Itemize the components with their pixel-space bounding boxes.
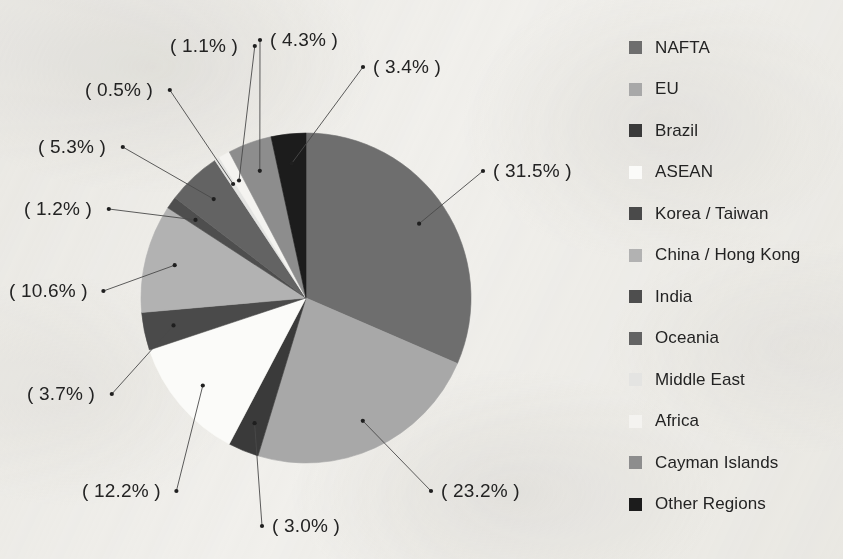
callout-marker-dot xyxy=(101,289,105,293)
callout-marker-dot xyxy=(237,178,241,182)
legend-color-swatch xyxy=(629,124,642,137)
callout-marker-dot xyxy=(212,197,216,201)
callout-marker-dot xyxy=(231,182,235,186)
legend-color-swatch xyxy=(629,249,642,262)
callout-marker-dot xyxy=(110,392,114,396)
legend-color-swatch xyxy=(629,41,642,54)
callout-marker-dot xyxy=(121,145,125,149)
callout-marker-dot xyxy=(201,383,205,387)
legend-item-label: Africa xyxy=(655,411,699,431)
callout-leader-line xyxy=(170,90,233,184)
chart-legend: NAFTAEUBrazilASEANKorea / TaiwanChina / … xyxy=(629,27,839,525)
legend-item-label: Brazil xyxy=(655,121,698,141)
pie-slice-percentage-label: ( 23.2% ) xyxy=(441,480,520,502)
pie-slice-percentage-label: ( 3.0% ) xyxy=(272,515,340,537)
pie-slice-percentage-label: ( 12.2% ) xyxy=(82,480,161,502)
pie-slice-percentage-label: ( 4.3% ) xyxy=(270,29,338,51)
legend-item-label: EU xyxy=(655,79,679,99)
legend-item-label: Korea / Taiwan xyxy=(655,204,769,224)
legend-item[interactable]: NAFTA xyxy=(629,27,839,69)
pie-slice-percentage-label: ( 31.5% ) xyxy=(493,160,572,182)
legend-item-label: Middle East xyxy=(655,370,745,390)
legend-item-label: India xyxy=(655,287,692,307)
legend-item[interactable]: Africa xyxy=(629,401,839,443)
callout-marker-dot xyxy=(168,88,172,92)
callout-marker-dot xyxy=(253,44,257,48)
legend-item-label: ASEAN xyxy=(655,162,713,182)
pie-slice-percentage-label: ( 3.4% ) xyxy=(373,56,441,78)
legend-color-swatch xyxy=(629,166,642,179)
legend-item-label: NAFTA xyxy=(655,38,710,58)
callout-marker-dot xyxy=(193,218,197,222)
callout-marker-dot xyxy=(361,419,365,423)
callout-marker-dot xyxy=(258,38,262,42)
callout-marker-dot xyxy=(107,207,111,211)
legend-item-label: Other Regions xyxy=(655,494,766,514)
legend-color-swatch xyxy=(629,415,642,428)
legend-item-label: China / Hong Kong xyxy=(655,245,800,265)
pie-slice-percentage-label: ( 3.7% ) xyxy=(27,383,95,405)
legend-color-swatch xyxy=(629,498,642,511)
callout-marker-dot xyxy=(171,323,175,327)
callout-marker-dot xyxy=(174,489,178,493)
legend-color-swatch xyxy=(629,290,642,303)
legend-item[interactable]: Other Regions xyxy=(629,484,839,526)
legend-item[interactable]: Oceania xyxy=(629,318,839,360)
legend-item[interactable]: ASEAN xyxy=(629,152,839,194)
pie-chart-figure: ( 31.5% )( 23.2% )( 3.0% )( 12.2% )( 3.7… xyxy=(0,0,843,559)
callout-marker-dot xyxy=(290,161,294,165)
callout-marker-dot xyxy=(173,263,177,267)
callout-marker-dot xyxy=(481,169,485,173)
legend-item[interactable]: India xyxy=(629,276,839,318)
legend-color-swatch xyxy=(629,207,642,220)
legend-item[interactable]: Brazil xyxy=(629,110,839,152)
legend-color-swatch xyxy=(629,332,642,345)
legend-item[interactable]: China / Hong Kong xyxy=(629,235,839,277)
callout-marker-dot xyxy=(260,524,264,528)
callout-marker-dot xyxy=(429,489,433,493)
pie-slice-group xyxy=(141,133,471,463)
legend-item[interactable]: Korea / Taiwan xyxy=(629,193,839,235)
legend-item[interactable]: Middle East xyxy=(629,359,839,401)
callout-marker-dot xyxy=(253,421,257,425)
legend-color-swatch xyxy=(629,83,642,96)
callout-marker-dot xyxy=(417,222,421,226)
legend-item-label: Cayman Islands xyxy=(655,453,778,473)
legend-color-swatch xyxy=(629,373,642,386)
legend-item[interactable]: EU xyxy=(629,69,839,111)
pie-slice-percentage-label: ( 10.6% ) xyxy=(9,280,88,302)
pie-slice-percentage-label: ( 1.1% ) xyxy=(170,35,238,57)
legend-item-label: Oceania xyxy=(655,328,719,348)
pie-slice-percentage-label: ( 1.2% ) xyxy=(24,198,92,220)
callout-marker-dot xyxy=(258,169,262,173)
pie-slice-percentage-label: ( 0.5% ) xyxy=(85,79,153,101)
callout-marker-dot xyxy=(361,65,365,69)
pie-slice-percentage-label: ( 5.3% ) xyxy=(38,136,106,158)
legend-item[interactable]: Cayman Islands xyxy=(629,442,839,484)
legend-color-swatch xyxy=(629,456,642,469)
